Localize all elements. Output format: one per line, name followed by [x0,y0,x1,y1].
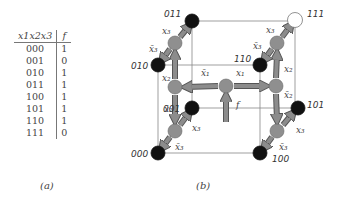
label-x2-right: x₂ [284,64,293,74]
x3-top-left-node [168,36,182,50]
vertex-000 [151,146,165,160]
x3-top-right-node [270,36,284,50]
label-x1bar: x̄₁ [201,68,210,78]
label-100: 100 [272,154,289,164]
label-101: 101 [307,100,324,110]
label-x3bar-bottom-left: x̄₃ [175,142,184,152]
boolean-cube-diagram: 000 001 010 011 100 101 110 111 x̄₁ x₁ f… [0,0,342,206]
label-x2bar-right: x̄₂ [284,90,293,100]
label-f: f [235,100,241,110]
label-111: 111 [307,9,324,19]
label-x2-left: x₂ [162,73,171,83]
x3-bottom-right-node [270,124,284,138]
label-000: 000 [131,149,148,159]
label-x3bar-top-left: x̄₃ [149,44,158,54]
label-x2bar-left: x̄₂ [164,104,173,114]
label-110: 110 [234,54,251,64]
label-x3-bottom-left: x₃ [192,123,201,133]
label-x3-bottom-right: x₃ [296,125,305,135]
vertex-101 [291,101,305,115]
label-x3-top-left: x₃ [162,26,171,36]
label-x3-top-right: x₃ [266,25,275,35]
label-010: 010 [131,61,148,71]
vertex-001 [185,101,199,115]
root-node [219,79,233,93]
x2-right-node [269,79,283,93]
label-x3bar-bottom-right: x̄₃ [279,142,288,152]
vertex-011 [185,14,199,28]
vertex-111 [288,13,303,28]
vertex-110 [253,58,267,72]
label-011: 011 [164,9,181,19]
label-x3bar-top-right: x̄₃ [253,41,262,51]
vertex-010 [151,58,165,72]
vertex-100 [253,146,267,160]
label-x1: x₁ [236,68,245,78]
x3-bottom-left-node [168,124,182,138]
